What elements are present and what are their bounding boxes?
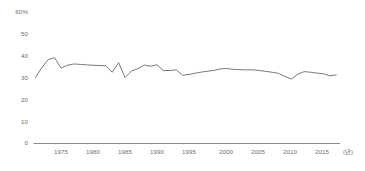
x-tick-label-2000: 2000 — [219, 149, 233, 155]
x-tick-label-1975: 1975 — [54, 149, 68, 155]
line-chart-plot — [0, 0, 365, 171]
x-tick-label-2005: 2005 — [251, 149, 265, 155]
data-series-line — [35, 58, 336, 79]
y-tick-label-60: 60% — [6, 9, 28, 15]
x-tick-label-1985: 1985 — [118, 149, 132, 155]
x-axis-unit-label: (년) — [343, 149, 353, 155]
chart-container: 60% 50 40 30 20 10 0 1975 1980 1985 1990… — [0, 0, 365, 171]
y-tick-label-0: 0 — [6, 140, 28, 146]
x-tick-label-2010: 2010 — [283, 149, 297, 155]
x-tick-label-2015: 2015 — [315, 149, 329, 155]
y-tick-label-50: 50 — [6, 31, 28, 37]
y-tick-label-30: 30 — [6, 75, 28, 81]
x-tick-label-1980: 1980 — [86, 149, 100, 155]
x-tick-label-1995: 1995 — [182, 149, 196, 155]
y-tick-label-40: 40 — [6, 53, 28, 59]
x-tick-label-1990: 1990 — [150, 149, 164, 155]
y-tick-label-20: 20 — [6, 97, 28, 103]
y-tick-label-10: 10 — [6, 119, 28, 125]
